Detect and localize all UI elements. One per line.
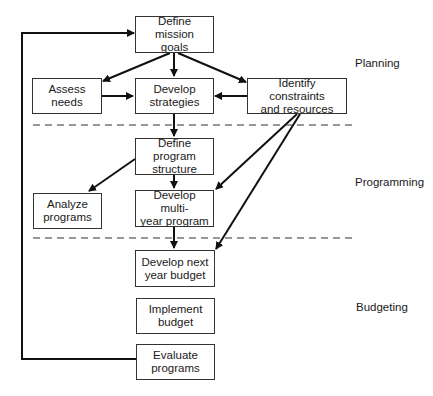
phase-label-programming: Programming	[355, 176, 424, 188]
node-identify-constraints: Identify constraintsand resources	[247, 78, 347, 114]
node-define-program-structure: Define programstructure	[135, 138, 214, 175]
node-analyze-programs: Analyzeprograms	[33, 193, 102, 229]
node-implement-budget: Implementbudget	[136, 298, 215, 334]
node-assess-needs: Assessneeds	[32, 78, 102, 114]
node-evaluate-programs: Evaluateprograms	[136, 344, 215, 380]
arrow-constraints-budget	[216, 114, 300, 249]
node-develop-multiyear-program: Develop multi-year program	[135, 190, 214, 227]
arrow-structure-analyze	[89, 159, 135, 191]
arrow-goals-assess	[103, 53, 170, 81]
node-develop-strategies: Developstrategies	[135, 78, 214, 114]
node-develop-next-year-budget: Develop nextyear budget	[135, 250, 215, 287]
phase-label-planning: Planning	[355, 57, 400, 69]
node-define-mission-goals: Define missiongoals	[135, 16, 214, 53]
phase-label-budgeting: Budgeting	[356, 301, 408, 313]
